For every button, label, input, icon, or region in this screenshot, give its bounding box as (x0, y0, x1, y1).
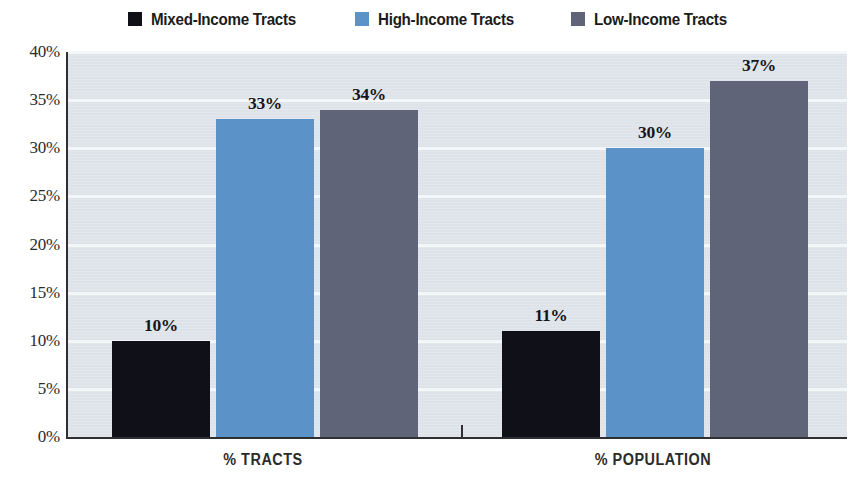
x-axis-group-label: % POPULATION (536, 451, 770, 469)
bar-value-label: 11% (502, 305, 600, 326)
y-axis: 40%35%30%25%20%15%10%5%0% (0, 0, 60, 491)
bar-value-label: 34% (320, 84, 418, 105)
legend-item-label: High-Income Tracts (378, 10, 514, 29)
bar-value-label: 10% (112, 315, 210, 336)
y-axis-tick-label: 25% (4, 186, 60, 206)
y-axis-tick-label: 0% (4, 427, 60, 447)
legend-swatch-icon (355, 12, 369, 26)
y-axis-tick-label: 10% (4, 331, 60, 351)
y-axis-tick-label: 15% (4, 283, 60, 303)
legend-item-mixed-income-tracts[interactable]: Mixed-Income Tracts (128, 10, 309, 29)
legend-item-low-income-tracts[interactable]: Low-Income Tracts (571, 10, 738, 29)
bar-value-label: 37% (710, 55, 808, 76)
chart-legend: Mixed-Income Tracts High-Income Tracts L… (0, 4, 867, 34)
bar[interactable] (606, 148, 704, 437)
bar-value-label: 33% (216, 93, 314, 114)
bar[interactable] (710, 81, 808, 437)
y-axis-tick-label: 20% (4, 235, 60, 255)
y-axis-tick-label: 35% (4, 90, 60, 110)
y-axis-tick-label: 30% (4, 138, 60, 158)
legend-swatch-icon (128, 12, 142, 26)
legend-item-high-income-tracts[interactable]: High-Income Tracts (355, 10, 526, 29)
x-axis-tick (461, 425, 463, 437)
bar[interactable] (320, 110, 418, 437)
bar[interactable] (216, 119, 314, 437)
bar-chart: Mixed-Income Tracts High-Income Tracts L… (0, 0, 867, 491)
legend-item-label: Mixed-Income Tracts (151, 10, 296, 29)
legend-swatch-icon (571, 12, 585, 26)
bar-value-label: 30% (606, 122, 704, 143)
legend-item-label: Low-Income Tracts (594, 10, 727, 29)
plot-area: 10%33%34%11%30%37% (66, 52, 847, 439)
y-axis-tick-label: 40% (4, 42, 60, 62)
y-axis-tick-label: 5% (4, 379, 60, 399)
x-axis-group-label: % TRACTS (146, 451, 380, 469)
bar[interactable] (502, 331, 600, 437)
gridline (68, 51, 847, 54)
bar[interactable] (112, 341, 210, 437)
